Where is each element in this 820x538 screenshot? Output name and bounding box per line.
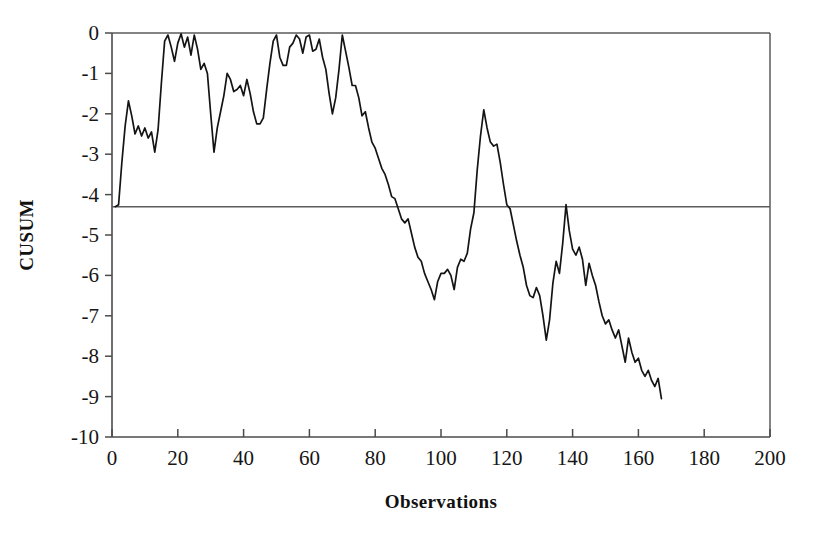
y-axis-title: CUSUM [16,199,37,271]
y-tick-label: 0 [89,21,100,45]
cusum-chart: 0-1-2-3-4-5-6-7-8-9-10 02040608010012014… [0,0,820,538]
y-tick-label: -8 [82,344,100,368]
y-tick-label: -3 [82,142,100,166]
x-axis-title: Observations [385,491,497,512]
chart-canvas: 0-1-2-3-4-5-6-7-8-9-10 02040608010012014… [0,0,820,538]
x-tick-label: 100 [425,446,457,470]
x-tick-label: 160 [623,446,655,470]
y-tick-label: -6 [82,263,100,287]
x-tick-label: 180 [688,446,720,470]
x-tick-label: 200 [754,446,786,470]
x-tick-label: 0 [107,446,118,470]
y-tick-label: -4 [82,183,100,207]
x-tick-label: 140 [557,446,589,470]
plot-frame [112,33,770,437]
y-tick-label: -2 [82,102,100,126]
y-tick-label: -1 [82,61,100,85]
cusum-series-line [115,34,661,399]
x-tick-label: 80 [365,446,386,470]
x-tick-label: 20 [167,446,188,470]
series-group [115,34,661,399]
y-tick-label: -7 [82,304,100,328]
y-tick-label: -9 [82,385,100,409]
x-tick-label: 40 [233,446,254,470]
y-tick-label: -10 [71,425,99,449]
x-tick-label: 120 [491,446,523,470]
y-tick-label: -5 [82,223,100,247]
x-axis: 020406080100120140160180200 [107,429,786,470]
x-tick-label: 60 [299,446,320,470]
y-axis: 0-1-2-3-4-5-6-7-8-9-10 [71,21,112,449]
